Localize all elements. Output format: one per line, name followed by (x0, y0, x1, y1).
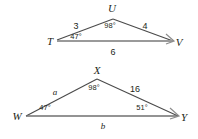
side-label-XY: 16 (130, 85, 140, 94)
segment-WX (26, 79, 97, 116)
side-label-TV: 6 (110, 48, 115, 57)
vertex-label-X: X (94, 65, 101, 76)
vertex-label-T: T (47, 36, 53, 47)
angle-label-U: 98° (104, 22, 115, 30)
angle-label-X: 98° (88, 84, 99, 92)
side-label-TU: 3 (73, 22, 78, 31)
angle-label-Y: 51° (136, 104, 147, 112)
vertex-label-Y: Y (181, 112, 187, 123)
side-label-UV: 4 (142, 22, 147, 31)
side-label-WX: a (53, 88, 58, 97)
triangle-WXY-shape (26, 79, 179, 119)
vertex-label-W: W (12, 111, 21, 122)
vertex-label-U: U (108, 3, 116, 14)
angle-label-W: 47° (39, 104, 50, 112)
side-label-WY: b (101, 122, 106, 131)
vertex-label-V: V (176, 37, 183, 48)
angle-label-T: 47° (70, 33, 81, 41)
